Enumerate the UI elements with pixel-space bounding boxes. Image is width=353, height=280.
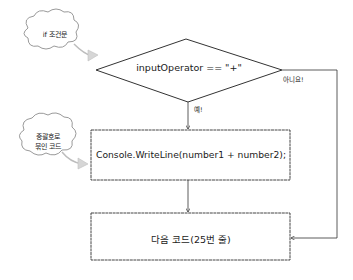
annotation-braces-line2: 묶인 코드 bbox=[26, 142, 70, 152]
cloud-tail-arrow-icon bbox=[88, 50, 98, 61]
condition-text: inputOperator == "+" bbox=[96, 62, 282, 73]
no-label: 아니요! bbox=[283, 74, 304, 84]
yes-label: 예! bbox=[194, 104, 203, 114]
process-box-text: Console.WriteLine(number1 + number2); bbox=[92, 149, 290, 160]
next-code-text: 다음 코드(25번 줄) bbox=[92, 232, 290, 246]
cloud-tail-arrow-icon bbox=[78, 158, 88, 169]
annotation-if-label: if 조건문 bbox=[30, 29, 80, 39]
annotation-braces-line1: 중괄호로 bbox=[26, 132, 70, 142]
annotation-braces-label: 중괄호로 묶인 코드 bbox=[26, 132, 70, 152]
